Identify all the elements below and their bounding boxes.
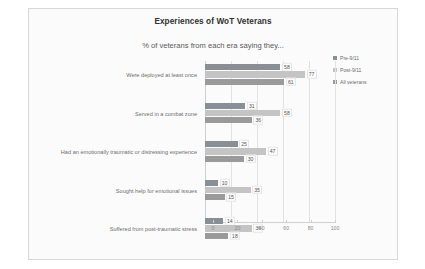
category-label: Served in a combat zone [37,111,197,117]
value-axis: 020406080100 [213,223,335,237]
bar-item: 15 [205,194,335,200]
axis-tick-mark [311,220,312,223]
legend-item-post-911[interactable]: Post-9/11 [333,65,393,74]
bar-item: 47 [205,148,335,154]
bar[interactable] [205,180,218,186]
bar-value-label: 58 [282,63,292,72]
bar-group: Had an emotionally traumatic or distress… [37,138,335,166]
bar-group: Sought help for emotional issues103515 [37,177,335,205]
axis-tick-mark [237,220,238,223]
chart-legend: Pre-9/11 Post-9/11 All veterans [333,53,393,89]
bar-item: 30 [205,156,335,162]
bar[interactable] [205,110,280,116]
bar[interactable] [205,103,245,109]
legend-item-pre-911[interactable]: Pre-9/11 [333,53,393,62]
gridline [335,61,336,223]
axis-tick-mark [262,220,263,223]
bar-item: 31 [205,103,335,109]
bar-value-label: 61 [286,78,296,87]
legend-item-all-veterans[interactable]: All veterans [333,77,393,86]
bar-value-label: 35 [252,186,262,195]
slide-canvas: Experiences of WoT Veterans % of veteran… [28,8,398,260]
axis-tick-mark [286,220,287,223]
bar-value-label: 31 [247,101,257,110]
axis-tick-mark [335,220,336,223]
chart-subtitle: % of veterans from each era saying they.… [29,41,397,50]
bar-item: 58 [205,110,335,116]
bar-item: 61 [205,79,335,85]
axis-tick-label: 20 [235,225,241,231]
axis-tick-label: 100 [331,225,340,231]
axis-tick-mark [213,220,214,223]
bar-value-label: 36 [253,116,263,125]
axis-tick-label: 0 [212,225,215,231]
bar-item: 77 [205,71,335,77]
category-label: Suffered from post-traumatic stress [37,226,197,232]
bar-item: 35 [205,187,335,193]
category-label: Were deployed at least once [37,72,197,78]
legend-label-pre-911: Pre-9/11 [340,55,359,61]
legend-label-all-veterans: All veterans [340,79,367,85]
plot-area: Were deployed at least once587761Served … [37,61,335,237]
legend-label-post-911: Post-9/11 [340,67,361,73]
bar[interactable] [205,148,266,154]
axis-tick-label: 60 [283,225,289,231]
legend-swatch-pre-911 [333,56,337,60]
bar-value-label: 15 [226,193,236,202]
bar[interactable] [205,156,244,162]
bars-container: 587761 [205,64,335,86]
bar-value-label: 77 [307,70,317,79]
bar-value-label: 30 [246,155,256,164]
bar-value-label: 58 [282,109,292,118]
bar-value-label: 10 [220,178,230,187]
bar[interactable] [205,194,225,200]
bars-container: 254730 [205,141,335,163]
bar[interactable] [205,141,238,147]
axis-tick-label: 40 [259,225,265,231]
bar-item: 10 [205,180,335,186]
bar[interactable] [205,117,252,123]
bar-value-label: 25 [239,140,249,149]
bar[interactable] [205,64,280,70]
chart-title: Experiences of WoT Veterans [29,17,397,26]
category-label: Had an emotionally traumatic or distress… [37,149,197,155]
bars-container: 315836 [205,103,335,125]
bar[interactable] [205,79,284,85]
bar-group: Were deployed at least once587761 [37,61,335,89]
bar-group: Served in a combat zone315836 [37,100,335,128]
bar-value-label: 47 [268,147,278,156]
bar-item: 36 [205,117,335,123]
category-label: Sought help for emotional issues [37,188,197,194]
axis-tick-label: 80 [308,225,314,231]
bars-container: 103515 [205,180,335,202]
